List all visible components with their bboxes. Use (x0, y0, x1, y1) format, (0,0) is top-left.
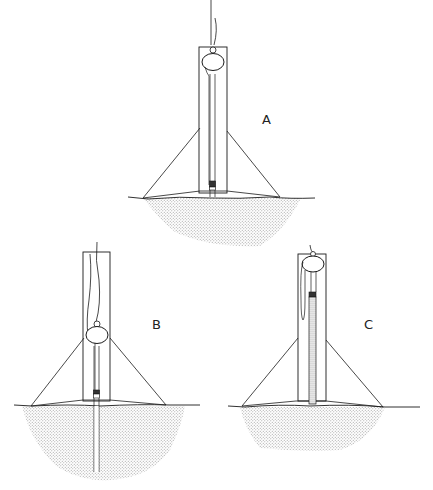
tube-b-fill (95, 406, 99, 472)
float-b (86, 327, 108, 344)
tube-c (309, 297, 316, 404)
ring-a (210, 47, 216, 53)
sensor-c (309, 292, 316, 297)
guy-wire-right-a (227, 131, 280, 197)
panel-label-a: A (262, 113, 271, 126)
tether-c (310, 245, 313, 252)
cord-a (205, 67, 209, 185)
soil-body-c (240, 407, 385, 451)
panel-b (14, 242, 200, 480)
ground-line-c (228, 405, 420, 407)
hanging-loop-c (301, 262, 305, 320)
diagram-canvas (0, 0, 433, 490)
panel-a (128, 0, 315, 246)
sensor-a-cap (210, 187, 216, 190)
guy-wire-right-b (110, 338, 166, 405)
soil-body-a (143, 198, 300, 246)
panel-c (228, 245, 420, 451)
guy-wire-right-c (326, 340, 383, 407)
guy-wire-left-b (31, 338, 84, 406)
cord-c (311, 272, 316, 292)
tether-b (96, 242, 100, 322)
sensor-a (210, 181, 216, 187)
tether-b-2 (87, 254, 91, 336)
panel-label-b: B (152, 318, 161, 331)
base-plate-a (143, 191, 280, 198)
sensor-b-cap (94, 394, 100, 398)
sensor-b (94, 390, 100, 394)
soil-body-b (22, 406, 185, 480)
panel-label-c: C (364, 318, 373, 331)
guy-wire-left-c (242, 338, 298, 406)
tether-a (211, 0, 216, 45)
float-c (302, 256, 324, 272)
guy-wire-left-a (143, 128, 200, 198)
